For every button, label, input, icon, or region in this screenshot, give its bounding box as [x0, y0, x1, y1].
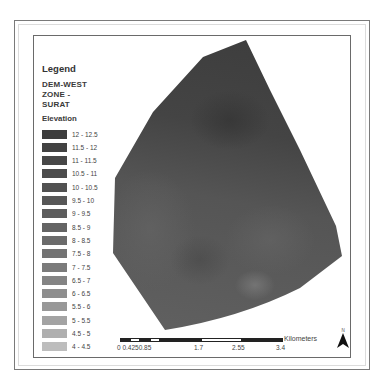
legend-swatch	[42, 316, 67, 325]
scale-segment	[120, 338, 130, 342]
legend-class-item: 11.5 - 12	[42, 142, 97, 152]
legend-class-item: 9 - 9.5	[42, 209, 90, 219]
legend-swatch	[42, 169, 67, 178]
legend-class-label: 7 - 7.5	[72, 264, 90, 271]
legend-swatch	[42, 223, 67, 232]
legend-class-item: 4 - 4.5	[42, 342, 90, 352]
legend-swatch	[42, 143, 67, 152]
legend-class-item: 5 - 5.5	[42, 315, 90, 325]
legend-class-label: 11.5 - 12	[72, 144, 97, 151]
north-arrow-icon: N	[336, 327, 350, 349]
legend-class-item: 9.5 - 10	[42, 196, 94, 206]
legend-class-label: 6 - 6.5	[72, 290, 90, 297]
legend-class-label: 11 - 11.5	[72, 157, 97, 164]
scale-tick-label: 1.7	[194, 344, 203, 351]
legend-swatch	[42, 342, 67, 351]
legend-field-name: Elevation	[42, 114, 117, 123]
scale-segment	[150, 338, 160, 342]
legend-class-label: 7.5 - 8	[72, 250, 90, 257]
scale-unit: Kilometers	[284, 335, 317, 342]
legend-swatch	[42, 329, 67, 338]
legend-title: Legend	[42, 63, 117, 74]
legend-swatch	[42, 183, 67, 192]
legend-class-label: 9.5 - 10	[72, 197, 94, 204]
legend-class-label: 10 - 10.5	[72, 184, 98, 191]
scale-segment	[160, 338, 201, 342]
legend-swatch	[42, 302, 67, 311]
scale-segment	[140, 338, 150, 342]
legend-swatch	[42, 236, 67, 245]
legend-class-label: 4.5 - 5	[72, 330, 90, 337]
legend-class-item: 5.5 - 6	[42, 302, 90, 312]
legend-class-label: 5.5 - 6	[72, 303, 90, 310]
legend-class-item: 7 - 7.5	[42, 262, 90, 272]
legend-class-item: 7.5 - 8	[42, 249, 90, 259]
legend-layer-name: DEM-WEST ZONE - SURAT	[42, 80, 117, 110]
legend-swatch	[42, 196, 67, 205]
legend-class-item: 4.5 - 5	[42, 329, 90, 339]
scale-tick-label: 2.55	[232, 344, 245, 351]
legend-swatch	[42, 289, 67, 298]
map-legend: Legend DEM-WEST ZONE - SURAT Elevation	[42, 63, 117, 126]
legend-swatch	[42, 249, 67, 258]
scale-segment	[201, 338, 242, 342]
legend-class-item: 8 - 8.5	[42, 235, 90, 245]
scale-segment	[242, 338, 283, 342]
scale-tick-label: 0 0.4250.85	[117, 344, 151, 351]
legend-swatch	[42, 209, 67, 218]
legend-class-label: 8 - 8.5	[72, 237, 90, 244]
legend-class-item: 10 - 10.5	[42, 182, 98, 192]
legend-class-label: 10.5 - 11	[72, 170, 97, 177]
legend-swatch	[42, 276, 67, 285]
legend-swatch	[42, 263, 67, 272]
legend-swatch	[42, 130, 67, 139]
legend-class-label: 12 - 12.5	[72, 131, 98, 138]
legend-swatch	[42, 156, 67, 165]
legend-class-item: 8.5 - 9	[42, 222, 90, 232]
svg-text:N: N	[341, 328, 344, 333]
legend-class-label: 8.5 - 9	[72, 224, 90, 231]
legend-class-label: 9 - 9.5	[72, 210, 90, 217]
legend-class-item: 11 - 11.5	[42, 156, 97, 166]
legend-class-item: 6.5 - 7	[42, 275, 90, 285]
legend-class-item: 12 - 12.5	[42, 129, 98, 139]
scale-tick-label: 3.4	[276, 344, 285, 351]
legend-class-item: 6 - 6.5	[42, 289, 90, 299]
scale-segment	[130, 338, 140, 342]
legend-class-label: 6.5 - 7	[72, 277, 90, 284]
legend-class-item: 10.5 - 11	[42, 169, 97, 179]
legend-class-label: 4 - 4.5	[72, 343, 90, 350]
elevation-raster-map	[0, 0, 388, 385]
legend-class-label: 5 - 5.5	[72, 317, 90, 324]
